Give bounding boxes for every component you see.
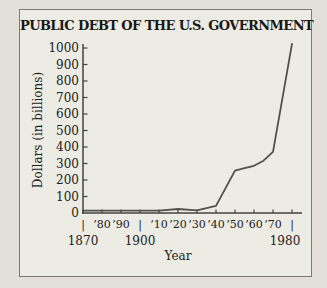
y-tick-label: 400 xyxy=(56,140,79,154)
x-decade-label: ’60 xyxy=(245,218,263,231)
textbook-figure: PUBLIC DEBT OF THE U.S. GOVERNMENT Dolla… xyxy=(0,0,327,288)
y-tick-label: 500 xyxy=(56,124,79,138)
x-century-label: 1980 xyxy=(270,234,301,248)
x-decade-label: ’10 xyxy=(150,218,168,231)
y-tick-label: 700 xyxy=(56,91,79,105)
x-decade-label: ’90 xyxy=(112,218,130,231)
x-decade-label: ’30 xyxy=(188,218,206,231)
y-tick-label: 0 xyxy=(71,206,79,220)
y-tick-label: 300 xyxy=(56,157,79,171)
x-decade-label: ’20 xyxy=(169,218,187,231)
y-tick-label: 100 xyxy=(56,190,79,204)
debt-line xyxy=(83,44,292,211)
x-decade-label: ’70 xyxy=(264,218,282,231)
x-decade-label: ’80 xyxy=(93,218,111,231)
y-tick-label: 200 xyxy=(56,173,79,187)
x-decade-label: | xyxy=(138,218,142,232)
x-century-label: 1870 xyxy=(68,234,99,248)
x-decade-label: | xyxy=(290,218,294,232)
y-tick-label: 1000 xyxy=(48,41,79,55)
x-decade-label: ’40 xyxy=(207,218,225,231)
y-tick-label: 900 xyxy=(56,58,79,72)
x-decade-label: ’50 xyxy=(226,218,244,231)
x-axis-title: Year xyxy=(165,249,192,263)
y-tick-label: 800 xyxy=(56,74,79,88)
x-century-label: 1900 xyxy=(125,234,156,248)
x-decade-label: | xyxy=(81,218,85,232)
y-tick-label: 600 xyxy=(56,107,79,121)
